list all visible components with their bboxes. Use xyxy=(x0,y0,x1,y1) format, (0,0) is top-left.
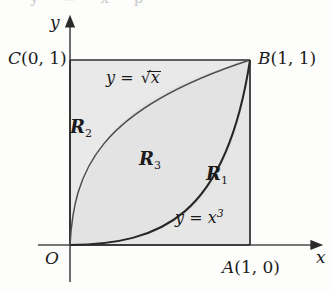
point-label-C: C(0, 1) xyxy=(8,50,67,67)
diagram-canvas xyxy=(0,0,331,290)
origin-label: O xyxy=(45,250,59,267)
y-axis-label: y xyxy=(50,14,60,31)
curve-label-sqrt-x: y = √x xyxy=(106,70,160,86)
region-label-r2: R2 xyxy=(70,118,92,139)
curve-label-x-cubed: y = x3 xyxy=(175,208,224,226)
x-axis-label: x xyxy=(316,249,326,266)
point-label-A: A(1, 0) xyxy=(222,259,280,276)
point-label-B: B(1, 1) xyxy=(258,50,316,67)
region-label-r3: R3 xyxy=(139,150,161,171)
region-label-r1: R1 xyxy=(206,165,228,186)
figure-unit-square-regions: y = x p C(0, 1) xyxy=(0,0,331,290)
